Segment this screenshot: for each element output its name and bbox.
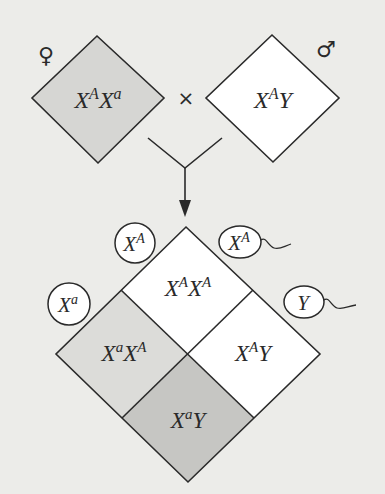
egg-gamete-Xa: Xa [48, 283, 90, 325]
diagram-canvas: ♀ XAXa × XAY ♂ XAXA XaXA XAY XaY [0, 0, 385, 494]
egg-gamete-XA: XA [115, 223, 155, 263]
sperm-tail-icon [261, 239, 291, 248]
cross-arrow-icon [148, 138, 222, 217]
sperm-gamete-XA: XA [219, 226, 291, 258]
cross-symbol: × [178, 86, 195, 110]
male-symbol-icon: ♂ [316, 37, 336, 62]
punnett-diagram: ♀ XAXa × XAY ♂ XAXA XaXA XAY XaY [0, 0, 385, 494]
female-symbol-icon: ♀ [38, 43, 54, 68]
sperm-tail-icon [324, 299, 356, 308]
sperm-gamete-Y: Y [284, 286, 356, 318]
punnett-square: XAXA XaXA XAY XaY [56, 227, 320, 482]
male-parent: XAY ♂ [206, 35, 339, 162]
female-parent: ♀ XAXa [32, 36, 164, 163]
